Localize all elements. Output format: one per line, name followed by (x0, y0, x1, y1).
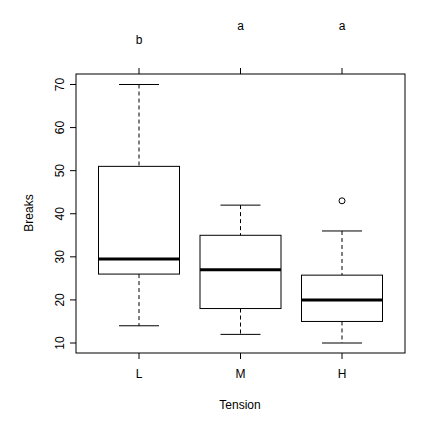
y-tick-label: 60 (53, 121, 67, 135)
y-tick-label: 30 (53, 250, 67, 264)
outlier-point (339, 198, 345, 204)
iqr-box (200, 235, 281, 308)
iqr-box (302, 275, 383, 321)
y-axis-label: Breaks (22, 194, 36, 231)
box-L (99, 85, 180, 326)
y-tick-label: 50 (53, 164, 67, 178)
top-axis-group-letters: baa (136, 19, 346, 74)
y-tick-label: 20 (53, 293, 67, 307)
boxes (99, 85, 383, 344)
x-axis-label: Tension (219, 398, 260, 412)
group-letter: b (136, 33, 143, 47)
y-tick-label: 40 (53, 207, 67, 221)
group-letter: a (339, 19, 346, 33)
box-M (200, 205, 281, 334)
boxplot-chart: 10203040506070 LMH baa Tension Breaks (0, 0, 424, 427)
y-tick-label: 10 (53, 336, 67, 350)
group-letter: a (237, 19, 244, 33)
y-axis: 10203040506070 (53, 78, 76, 350)
box-H (302, 198, 383, 343)
x-axis: LMH (136, 353, 347, 381)
x-tick-label: M (236, 367, 246, 381)
y-tick-label: 70 (53, 78, 67, 92)
x-tick-label: L (136, 367, 143, 381)
x-tick-label: H (338, 367, 347, 381)
